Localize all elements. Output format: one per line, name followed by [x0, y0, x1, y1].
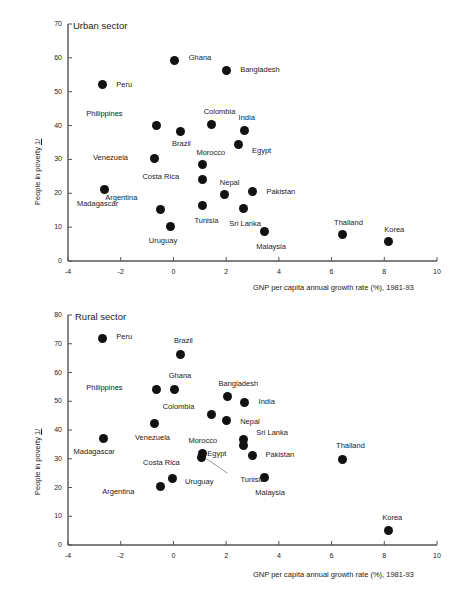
x-tick-label: 2 — [211, 268, 241, 275]
data-point — [152, 385, 161, 394]
sector-title: Rural sector — [75, 311, 126, 322]
y-axis-title: People in poverty 1/ — [33, 429, 42, 495]
data-point-label: Bangladesh — [240, 65, 280, 74]
data-point-label: Madagascar — [74, 447, 115, 456]
x-tick-label: -2 — [106, 268, 136, 275]
x-tick-label: 4 — [264, 552, 294, 559]
x-tick-label: 0 — [158, 268, 188, 275]
y-tick-label: 10 — [42, 512, 62, 519]
data-point-label: Morocco — [196, 148, 225, 157]
chart-urban-sector: Urban sectorPeople in poverty 1/GNP per … — [0, 0, 470, 300]
data-point-label: Egypt — [252, 146, 271, 155]
x-tick-label: -2 — [106, 552, 136, 559]
data-point — [198, 175, 207, 184]
y-tick-label: 0 — [42, 541, 62, 548]
data-point-label: Tunisia — [240, 475, 264, 484]
data-point-label: Argentina — [102, 487, 134, 496]
data-point-label: Morocco — [188, 436, 217, 445]
data-point — [170, 385, 179, 394]
x-tick-label: 10 — [422, 268, 452, 275]
y-tick-label: 80 — [42, 311, 62, 318]
y-axis-title: People in poverty 1/ — [33, 139, 42, 205]
y-tick-label: 20 — [42, 189, 62, 196]
data-point-label: Ghana — [169, 371, 192, 380]
data-point-label: Venezuela — [135, 433, 170, 442]
y-tick-label: 70 — [42, 340, 62, 347]
data-point — [384, 237, 393, 246]
data-point — [197, 453, 206, 462]
data-point — [248, 451, 257, 460]
data-point — [152, 121, 161, 130]
y-tick-label: 10 — [42, 223, 62, 230]
data-point — [222, 66, 231, 75]
data-point — [239, 204, 248, 213]
data-point-label: Brazil — [172, 139, 191, 148]
data-point-label: Peru — [116, 80, 132, 89]
data-point-label: Korea — [382, 513, 402, 522]
data-point — [239, 441, 248, 450]
y-tick-label: 30 — [42, 155, 62, 162]
data-point — [176, 350, 185, 359]
sector-title: Urban sector — [73, 20, 127, 31]
y-tick-label: 50 — [42, 88, 62, 95]
data-point-label: India — [239, 113, 255, 122]
data-point — [156, 205, 165, 214]
data-point — [98, 334, 107, 343]
data-point-label: Costa Rica — [143, 458, 180, 467]
data-point-label: India — [259, 397, 275, 406]
data-point-label: Uruguay — [185, 477, 213, 486]
y-tick-label: 50 — [42, 397, 62, 404]
x-axis-title: GNP per capita annual growth rate (%), 1… — [253, 570, 414, 579]
data-point — [156, 482, 165, 491]
data-point-label: Korea — [384, 225, 404, 234]
data-point-label: Thailand — [334, 218, 363, 227]
data-point-label: Thailand — [336, 441, 365, 450]
data-point — [99, 434, 108, 443]
data-point-label: Philippines — [86, 383, 122, 392]
data-point-label: Uruguay — [149, 236, 177, 245]
data-point-label: Brazil — [174, 336, 193, 345]
data-point — [168, 474, 177, 483]
data-point — [176, 127, 185, 136]
data-point — [338, 455, 347, 464]
data-point — [222, 416, 231, 425]
x-tick-label: 6 — [317, 268, 347, 275]
data-point — [198, 160, 207, 169]
data-point — [234, 140, 243, 149]
data-point-label: Colombia — [204, 107, 236, 116]
data-point-label: Peru — [116, 332, 132, 341]
data-point-label: Pakistan — [267, 187, 296, 196]
x-tick-label: -4 — [53, 268, 83, 275]
x-tick-label: 2 — [211, 552, 241, 559]
data-point-label: Malaysia — [255, 488, 285, 497]
x-tick-label: 0 — [158, 552, 188, 559]
data-point-label: Costa Rica — [142, 172, 179, 181]
data-point-label: Nepal — [220, 178, 240, 187]
data-point-label: Egypt — [207, 449, 226, 458]
leader-line — [206, 459, 227, 473]
y-tick-label: 40 — [42, 122, 62, 129]
data-point-label: Nepal — [240, 417, 260, 426]
y-tick-label: 40 — [42, 426, 62, 433]
data-point-label: Argentina — [105, 193, 137, 202]
data-point — [248, 187, 257, 196]
y-tick-label: 0 — [42, 257, 62, 264]
y-tick-label: 20 — [42, 484, 62, 491]
y-tick-label: 70 — [42, 20, 62, 27]
data-point-label: Ghana — [189, 53, 212, 62]
x-axis-title: GNP per capita annual growth rate (%), 1… — [253, 283, 414, 292]
data-point — [240, 398, 249, 407]
x-tick-label: 8 — [369, 552, 399, 559]
y-tick-label: 30 — [42, 455, 62, 462]
data-point — [166, 222, 175, 231]
x-tick-label: 4 — [264, 268, 294, 275]
data-point-label: Colombia — [163, 402, 195, 411]
x-tick-label: -4 — [53, 552, 83, 559]
data-point-label: Venezuela — [93, 153, 128, 162]
data-point-label: Bangladesh — [218, 379, 258, 388]
data-point-label: Tunisia — [194, 216, 218, 225]
x-tick-label: 6 — [317, 552, 347, 559]
data-point-label: Philippines — [86, 109, 122, 118]
data-point-label: Sri Lanka — [229, 219, 261, 228]
data-point-label: Malaysia — [256, 242, 286, 251]
